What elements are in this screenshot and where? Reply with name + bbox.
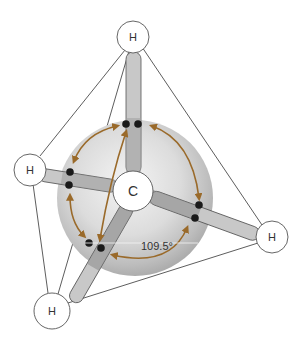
hydrogen-atom-right: H xyxy=(256,221,288,253)
carbon-atom: C xyxy=(113,171,153,211)
hydrogen-atom-left: H xyxy=(14,154,46,186)
carbon-label: C xyxy=(128,183,138,199)
hydrogen-atom-top: H xyxy=(117,21,149,53)
hydrogen-label: H xyxy=(26,164,34,176)
electron xyxy=(134,120,142,128)
electron xyxy=(195,201,203,209)
electron xyxy=(65,181,73,189)
electron xyxy=(122,120,130,128)
methane-tetrahedral-diagram: 109.5° C H H H H xyxy=(0,0,307,344)
electron xyxy=(191,214,199,222)
hydrogen-label: H xyxy=(129,31,137,43)
hydrogen-label: H xyxy=(48,305,56,317)
diagram-canvas: 109.5° C H H H H xyxy=(0,0,307,344)
bond-angle-label: 109.5° xyxy=(141,240,173,252)
electron xyxy=(66,168,74,176)
electron xyxy=(97,244,105,252)
hydrogen-atom-bottom: H xyxy=(34,293,70,329)
hydrogen-label: H xyxy=(268,231,276,243)
